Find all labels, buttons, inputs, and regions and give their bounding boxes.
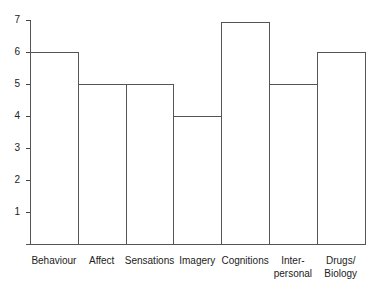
x-axis xyxy=(26,244,366,245)
bar xyxy=(269,84,318,244)
bar xyxy=(221,22,270,244)
y-tick-label: 7 xyxy=(6,14,20,25)
y-tick xyxy=(26,20,31,21)
y-tick-label: 1 xyxy=(6,206,20,217)
bar xyxy=(317,52,366,244)
x-category-label: Drugs/ Biology xyxy=(313,254,369,280)
y-tick-label: 2 xyxy=(6,174,20,185)
bar xyxy=(30,52,79,244)
y-tick-label: 6 xyxy=(6,46,20,57)
y-tick-label: 4 xyxy=(6,110,20,121)
y-tick-label: 3 xyxy=(6,142,20,153)
y-tick-label: 5 xyxy=(6,78,20,89)
bar xyxy=(173,116,222,244)
bar xyxy=(78,84,127,244)
bar-chart: 1234567 BehaviourAffectSensationsImagery… xyxy=(0,0,377,290)
bar xyxy=(126,84,175,244)
